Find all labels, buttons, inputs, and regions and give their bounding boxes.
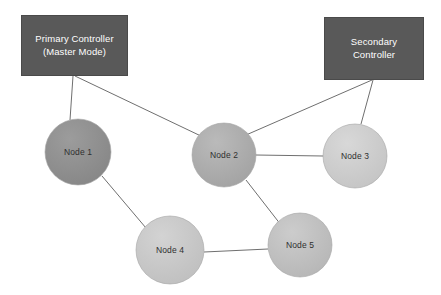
primary-controller-label-line2: (Master Mode) — [43, 46, 106, 59]
network-diagram-canvas: Primary Controller (Master Mode) Seconda… — [0, 0, 441, 295]
primary-controller-box[interactable]: Primary Controller (Master Mode) — [21, 15, 128, 76]
node-3-label: Node 3 — [323, 124, 387, 188]
edge-node2-node3 — [256, 155, 323, 156]
node-4-label: Node 4 — [136, 216, 204, 284]
edge-secondary-node3 — [361, 80, 373, 124]
edge-node4-node5 — [204, 249, 268, 252]
edge-node2-node5 — [246, 180, 281, 225]
node-2-label: Node 2 — [192, 123, 256, 187]
secondary-controller-box[interactable]: Secondary Controller — [324, 17, 424, 80]
secondary-controller-label-line1: Secondary — [351, 36, 397, 49]
edge-node1-node4 — [102, 176, 146, 228]
node-5-label: Node 5 — [268, 213, 332, 277]
primary-controller-label-line1: Primary Controller — [35, 33, 113, 46]
edge-primary-node1 — [70, 76, 73, 120]
secondary-controller-label-line2: Controller — [353, 49, 395, 62]
node-1-label: Node 1 — [45, 119, 111, 185]
